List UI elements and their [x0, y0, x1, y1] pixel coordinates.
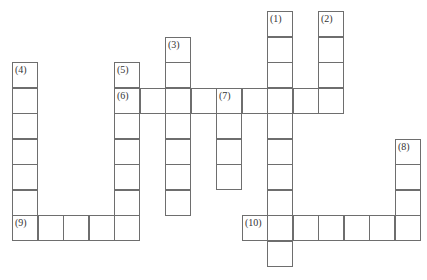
- crossword-cell[interactable]: [216, 113, 242, 139]
- crossword-cell[interactable]: (10): [242, 215, 268, 241]
- crossword-cell[interactable]: [267, 215, 293, 241]
- crossword-cell[interactable]: [242, 88, 268, 114]
- crossword-cell[interactable]: [165, 113, 191, 139]
- crossword-cell[interactable]: (7): [216, 88, 242, 114]
- crossword-cell[interactable]: [267, 62, 293, 88]
- crossword-cell[interactable]: [165, 88, 191, 114]
- crossword-cell[interactable]: (2): [318, 11, 344, 37]
- clue-number-label: (3): [168, 39, 180, 50]
- crossword-cell[interactable]: [293, 215, 319, 241]
- crossword-cell[interactable]: [114, 215, 140, 241]
- crossword-cell[interactable]: [191, 88, 217, 114]
- crossword-cell[interactable]: [38, 215, 64, 241]
- clue-number-label: (8): [398, 141, 410, 152]
- crossword-cell[interactable]: [318, 88, 344, 114]
- crossword-cell[interactable]: [12, 113, 38, 139]
- crossword-cell[interactable]: (9): [12, 215, 38, 241]
- crossword-cell[interactable]: [395, 190, 421, 216]
- crossword-cell[interactable]: [267, 164, 293, 190]
- crossword-grid: (1)(2)(3)(4)(9)(5)(6)(7)(8)(10): [0, 0, 427, 280]
- crossword-cell[interactable]: [395, 164, 421, 190]
- clue-number-label: (10): [245, 217, 262, 228]
- crossword-cell[interactable]: [63, 215, 89, 241]
- crossword-cell[interactable]: [267, 88, 293, 114]
- clue-number-label: (2): [321, 13, 333, 24]
- crossword-cell[interactable]: [12, 164, 38, 190]
- crossword-cell[interactable]: [12, 139, 38, 165]
- crossword-cell[interactable]: (8): [395, 139, 421, 165]
- clue-number-label: (1): [270, 13, 282, 24]
- crossword-cell[interactable]: [114, 139, 140, 165]
- crossword-cell[interactable]: [89, 215, 115, 241]
- clue-number-label: (9): [15, 217, 27, 228]
- crossword-cell[interactable]: [369, 215, 395, 241]
- crossword-cell[interactable]: [267, 113, 293, 139]
- crossword-cell[interactable]: (4): [12, 62, 38, 88]
- crossword-cell[interactable]: (5): [114, 62, 140, 88]
- clue-number-label: (6): [117, 90, 129, 101]
- crossword-cell[interactable]: [114, 164, 140, 190]
- crossword-cell[interactable]: [165, 62, 191, 88]
- crossword-cell[interactable]: [318, 215, 344, 241]
- crossword-cell[interactable]: [267, 37, 293, 63]
- crossword-cell[interactable]: [267, 241, 293, 267]
- crossword-cell[interactable]: [12, 88, 38, 114]
- crossword-cell[interactable]: [267, 190, 293, 216]
- crossword-cell[interactable]: [216, 139, 242, 165]
- crossword-cell[interactable]: [114, 113, 140, 139]
- clue-number-label: (5): [117, 64, 129, 75]
- crossword-cell[interactable]: [216, 164, 242, 190]
- crossword-cell[interactable]: [267, 139, 293, 165]
- crossword-cell[interactable]: [344, 215, 370, 241]
- crossword-cell[interactable]: [318, 62, 344, 88]
- crossword-cell[interactable]: [12, 190, 38, 216]
- crossword-cell[interactable]: [140, 88, 166, 114]
- crossword-cell[interactable]: [318, 37, 344, 63]
- crossword-cell[interactable]: (1): [267, 11, 293, 37]
- crossword-cell[interactable]: [165, 164, 191, 190]
- clue-number-label: (7): [219, 90, 231, 101]
- crossword-cell[interactable]: (6): [114, 88, 140, 114]
- crossword-cell[interactable]: [114, 190, 140, 216]
- crossword-cell[interactable]: [165, 139, 191, 165]
- crossword-cell[interactable]: [293, 88, 319, 114]
- crossword-cell[interactable]: [395, 215, 421, 241]
- crossword-cell[interactable]: [165, 190, 191, 216]
- crossword-cell[interactable]: (3): [165, 37, 191, 63]
- clue-number-label: (4): [15, 64, 27, 75]
